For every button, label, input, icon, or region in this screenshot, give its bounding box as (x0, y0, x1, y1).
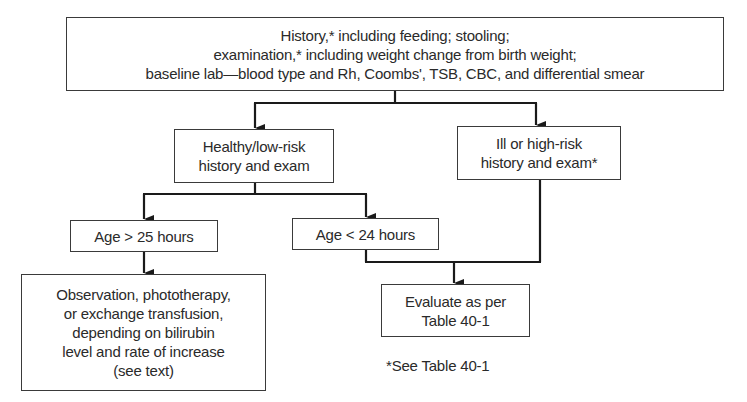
node-text-line: history and exam (198, 156, 309, 175)
node-text-line: History,* including feeding; stooling; (281, 26, 510, 45)
node-age-over-25-hours: Age > 25 hours (70, 220, 218, 252)
node-ill-high-risk: Ill or high-risk history and exam* (457, 126, 621, 180)
node-text-line: baseline lab—blood type and Rh, Coombs',… (146, 64, 645, 83)
node-text-line: or exchange transfusion, (64, 304, 223, 323)
node-text-line: depending on bilirubin (72, 323, 214, 342)
node-evaluate-table: Evaluate as per Table 40-1 (381, 284, 530, 337)
node-text-line: Ill or high-risk (496, 134, 582, 153)
flowchart-canvas: History,* including feeding; stooling; e… (0, 0, 747, 402)
node-text-line: Table 40-1 (421, 311, 489, 330)
node-text-line: examination,* including weight change fr… (213, 45, 576, 64)
node-text-line: Healthy/low-risk (203, 137, 306, 156)
node-text-line: level and rate of increase (62, 342, 224, 361)
node-text-line: history and exam* (481, 153, 598, 172)
node-text-line: (see text) (113, 361, 174, 380)
node-initial-assessment: History,* including feeding; stooling; e… (66, 17, 724, 91)
footnote: *See Table 40-1 (386, 356, 489, 375)
node-text-line: Evaluate as per (405, 292, 506, 311)
node-text-line: Age < 24 hours (316, 225, 415, 244)
node-age-under-24-hours: Age < 24 hours (292, 218, 439, 250)
node-text-line: Age > 25 hours (94, 227, 193, 246)
node-healthy-low-risk: Healthy/low-risk history and exam (174, 129, 334, 183)
node-observation-treatment: Observation, phototherapy, or exchange t… (21, 274, 266, 391)
node-text-line: Observation, phototherapy, (56, 285, 231, 304)
